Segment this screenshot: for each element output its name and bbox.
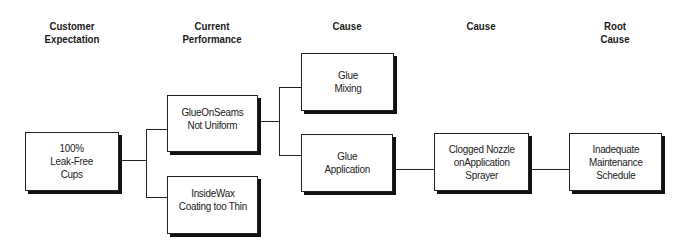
header-cause-1: Cause xyxy=(303,20,391,33)
connector-to-e xyxy=(279,155,301,156)
connector-b-out xyxy=(260,121,279,122)
connector-to-c xyxy=(146,197,167,198)
node-label: Inadequate Maintenance Schedule xyxy=(589,143,643,182)
node-label: InsideWax Coating too Thin xyxy=(178,187,246,213)
connector-f-g xyxy=(531,169,569,170)
node-clogged-nozzle: Clogged Nozzle onApplication Sprayer xyxy=(434,133,529,191)
header-customer-expectation: Customer Expectation xyxy=(28,20,116,46)
connector-b-vertical xyxy=(279,87,280,156)
node-glue-mixing: Glue Mixing xyxy=(301,53,394,111)
node-inside-wax: InsideWax Coating too Thin xyxy=(167,176,258,234)
node-label: Glue Application xyxy=(324,150,369,176)
node-label: 100% Leak-Free Cups xyxy=(51,142,94,181)
header-root-cause: Root Cause xyxy=(571,20,659,46)
node-glue-application: Glue Application xyxy=(301,134,393,192)
node-glue-on-seams: GlueOnSeams Not Uniform xyxy=(167,95,258,152)
connector-a-out xyxy=(121,160,146,161)
node-label: GlueOnSeams Not Uniform xyxy=(182,106,244,132)
header-current-performance: Current Performance xyxy=(168,20,256,46)
node-root-cause: Inadequate Maintenance Schedule xyxy=(569,133,662,191)
connector-a-vertical xyxy=(146,129,147,198)
header-cause-2: Cause xyxy=(437,20,525,33)
node-label: Glue Mixing xyxy=(334,69,361,95)
connector-to-b xyxy=(146,129,167,130)
node-label: Clogged Nozzle onApplication Sprayer xyxy=(448,143,514,182)
connector-e-f xyxy=(395,169,434,170)
connector-to-d xyxy=(279,87,301,88)
node-customer-expectation: 100% Leak-Free Cups xyxy=(25,132,119,191)
